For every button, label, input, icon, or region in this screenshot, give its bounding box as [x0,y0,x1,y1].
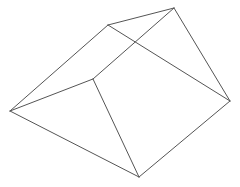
edge-AC [10,25,108,111]
prism-diagram [0,0,240,187]
edge-EF [139,101,230,177]
edge-BE [174,8,230,101]
edge-CF [10,111,139,177]
edge-AE [108,25,230,101]
edge-DF [93,79,139,177]
prism-edges [10,8,230,177]
edge-CD [10,79,93,111]
